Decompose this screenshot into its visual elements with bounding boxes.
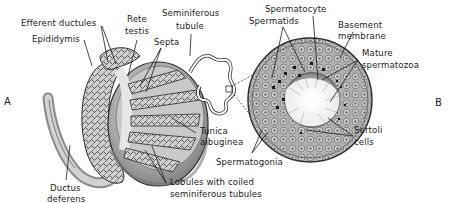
label-spermatogonia: Spermatogonia [216, 157, 283, 167]
label-spermatocyte: Spermatocyte [265, 4, 327, 14]
label-septa: Septa [154, 37, 179, 47]
label-rete-testis-line2: testis [125, 26, 149, 36]
label-ductus-deferens-line1: Ductus [50, 183, 81, 193]
label-efferent-ductules: Efferent ductules [21, 18, 96, 28]
label-rete-testis-line1: Rete [127, 14, 147, 24]
label-basement-membrane-line1: Basement [338, 20, 382, 30]
label-mature-spermatozoa-line2: spermatozoa [362, 60, 419, 70]
label-lobules-line1: Lobules with coiled [170, 177, 254, 187]
label-seminiferous-tubule-line2: tubule [176, 21, 204, 31]
label-sertoli-cells-line2: cells [354, 137, 374, 147]
label-sertoli-cells-line1: Sertoli [354, 125, 382, 135]
panel-label-b: B [435, 97, 442, 108]
panel-label-a: A [4, 96, 11, 107]
label-ductus-deferens-line2: deferens [47, 194, 85, 203]
label-basement-membrane-line2: membrane [338, 31, 386, 41]
testis-drawing [108, 62, 208, 186]
label-tunica-albuginea-line2: albuginea [200, 137, 243, 147]
label-spermatids: Spermatids [249, 16, 299, 26]
label-epididymis: Epididymis [32, 34, 80, 44]
label-lobules-line2: seminiferous tubules [170, 189, 262, 199]
label-seminiferous-tubule-line1: Seminiferous [162, 8, 219, 18]
testis-anatomy-diagram: A B Efferent ductules Epididymis Rete te… [0, 0, 451, 203]
label-mature-spermatozoa-line1: Mature [362, 48, 393, 58]
label-tunica-albuginea-line1: Tunica [200, 126, 228, 136]
